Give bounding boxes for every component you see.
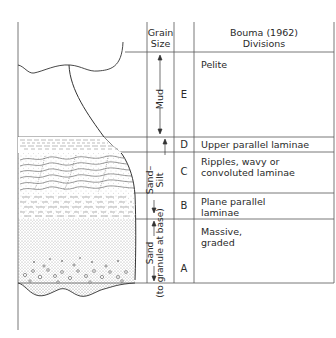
- pelite-top-surface: [18, 42, 123, 73]
- sand-line1: Sand: [145, 208, 155, 298]
- sand-silt-line2: Silt: [155, 155, 165, 205]
- division-letter-d: D: [174, 139, 194, 150]
- grain-size-mud: Mud: [155, 79, 165, 119]
- division-letter-e: E: [174, 89, 194, 100]
- division-b-line2: laminae: [201, 207, 265, 218]
- sand-line2: (to granule at base): [155, 208, 165, 298]
- grain-size-header-line2: Size: [147, 38, 174, 49]
- scoured-base: [18, 283, 135, 296]
- grain-size-sand: Sand (to granule at base): [145, 208, 165, 298]
- division-e-description: Pelite: [201, 59, 227, 70]
- division-c-line1: Ripples, wavy or: [201, 156, 295, 167]
- division-b-description: Plane parallel laminae: [201, 196, 265, 218]
- division-a-fill: [18, 219, 136, 283]
- division-a-line2: graded: [201, 237, 242, 248]
- division-a-line1: Massive,: [201, 226, 242, 237]
- division-b-line1: Plane parallel: [201, 196, 265, 207]
- division-c-description: Ripples, wavy or convoluted laminae: [201, 156, 295, 178]
- division-c-line2: convoluted laminae: [201, 167, 295, 178]
- division-a-description: Massive, graded: [201, 226, 242, 248]
- bouma-divisions-header: Bouma (1962) Divisions: [194, 27, 334, 49]
- grain-size-sand-silt: Sand– Silt: [145, 155, 165, 205]
- division-letter-b: B: [174, 200, 194, 211]
- divisions-header-line1: Bouma (1962): [194, 27, 334, 38]
- grain-size-header: Grain Size: [147, 27, 174, 49]
- division-d-description: Upper parallel laminae: [201, 139, 309, 150]
- division-letter-c: C: [174, 166, 194, 177]
- divisions-header-line2: Divisions: [194, 38, 334, 49]
- division-letter-a: A: [174, 263, 194, 274]
- grain-size-header-line1: Grain: [147, 27, 174, 38]
